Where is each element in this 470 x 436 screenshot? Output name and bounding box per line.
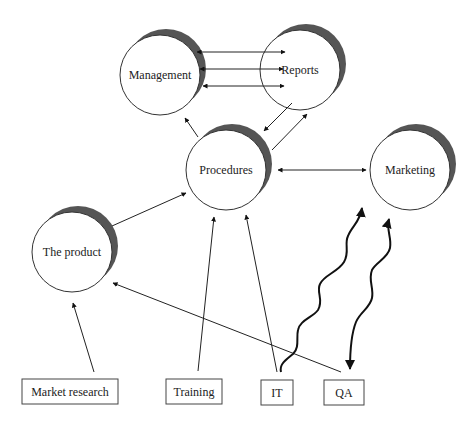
box-label-training: Training bbox=[174, 385, 215, 399]
node-marketing[interactable]: Marketing bbox=[370, 124, 456, 210]
node-management[interactable]: Management bbox=[120, 29, 206, 115]
diagram-canvas: Management Reports Procedures Marketing … bbox=[0, 0, 470, 436]
edge-market-research-product bbox=[73, 303, 94, 372]
edge-reports-procedures bbox=[264, 103, 292, 131]
node-label-marketing: Marketing bbox=[385, 163, 435, 177]
box-label-qa: QA bbox=[335, 386, 353, 400]
box-it[interactable]: IT bbox=[261, 380, 293, 405]
edge-it-procedures bbox=[246, 215, 277, 372]
node-procedures[interactable]: Procedures bbox=[186, 124, 272, 210]
box-label-market-research: Market research bbox=[31, 385, 109, 399]
edge-procedures-reports bbox=[272, 114, 307, 150]
edge-training-procedures bbox=[198, 217, 214, 371]
box-training[interactable]: Training bbox=[166, 379, 222, 404]
node-reports[interactable]: Reports bbox=[260, 24, 346, 110]
node-label-the-product: The product bbox=[43, 245, 102, 259]
edge-marketing-qa-wavy bbox=[350, 219, 390, 369]
node-label-reports: Reports bbox=[281, 63, 319, 77]
edge-procedures-management bbox=[185, 118, 198, 137]
node-the-product[interactable]: The product bbox=[32, 206, 118, 292]
box-market-research[interactable]: Market research bbox=[22, 379, 118, 404]
node-label-procedures: Procedures bbox=[199, 163, 253, 177]
edge-it-marketing-wavy bbox=[281, 208, 362, 372]
node-label-management: Management bbox=[129, 68, 192, 82]
box-label-it: IT bbox=[271, 386, 283, 400]
box-qa[interactable]: QA bbox=[324, 380, 364, 405]
edge-product-procedures bbox=[112, 193, 186, 226]
edge-qa-product bbox=[113, 283, 341, 372]
